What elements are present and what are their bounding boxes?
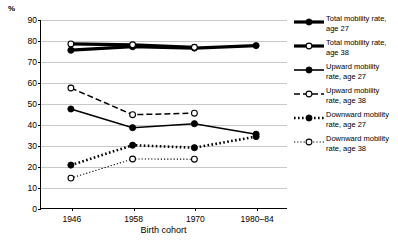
legend-item-upward-age-38[interactable]: Upward mobility rate, age 38 [292, 86, 398, 105]
legend-item-total-age-38[interactable]: Total mobility rate, age 38 [292, 38, 398, 57]
legend-marker-total-age-27 [292, 15, 326, 29]
x-tick-mark [134, 208, 135, 211]
plot-area: 01020304050607080901946195819701980–84 [40, 20, 287, 209]
y-tick-mark [38, 104, 41, 105]
y-tick-label: 60 [7, 78, 37, 88]
y-tick-label: 70 [7, 57, 37, 67]
y-tick-mark [38, 167, 41, 168]
gridline [41, 41, 287, 42]
x-tick-mark [72, 208, 73, 211]
y-tick-mark [38, 125, 41, 126]
y-tick-label: 50 [7, 99, 37, 109]
legend-item-total-age-27[interactable]: Total mobility rate, age 27 [292, 14, 398, 33]
y-tick-mark [38, 20, 41, 21]
gridline [41, 83, 287, 84]
y-tick-label: 90 [7, 15, 37, 25]
legend-item-downward-age-27[interactable]: Downward mobility rate, age 27 [292, 110, 398, 129]
x-tick-mark [195, 208, 196, 211]
y-tick-label: 10 [7, 183, 37, 193]
gridline [41, 146, 287, 147]
legend-marker-upward-age-27 [292, 63, 326, 77]
x-tick-label: 1980–84 [241, 214, 274, 224]
y-tick-mark [38, 188, 41, 189]
legend-marker-total-age-38 [292, 39, 326, 53]
x-tick-label: 1946 [62, 214, 81, 224]
gridline [41, 20, 287, 21]
legend-label-upward-age-38: Upward mobility rate, age 38 [326, 86, 379, 105]
legend-label-upward-age-27: Upward mobility rate, age 27 [326, 62, 379, 81]
gridline [41, 62, 287, 63]
gridline [41, 125, 287, 126]
legend-label-downward-age-27: Downward mobility rate, age 27 [326, 110, 389, 129]
legend-label-downward-age-38: Downward mobility rate, age 38 [326, 134, 389, 153]
y-tick-mark [38, 83, 41, 84]
gridline [41, 167, 287, 168]
y-tick-label: 80 [7, 36, 37, 46]
x-tick-label: 1958 [124, 214, 143, 224]
y-tick-mark [38, 62, 41, 63]
legend-item-downward-age-38[interactable]: Downward mobility rate, age 38 [292, 134, 398, 153]
chart-container: % 01020304050607080901946195819701980–84… [0, 0, 398, 243]
chart-legend: Total mobility rate, age 27 Total mobili… [292, 14, 398, 158]
y-tick-label: 0 [7, 204, 37, 214]
y-tick-mark [38, 146, 41, 147]
y-tick-mark [38, 209, 41, 210]
gridline [41, 104, 287, 105]
gridline [41, 188, 287, 189]
legend-item-upward-age-27[interactable]: Upward mobility rate, age 27 [292, 62, 398, 81]
legend-marker-downward-age-27 [292, 111, 326, 125]
y-tick-mark [38, 41, 41, 42]
y-tick-label: 20 [7, 162, 37, 172]
y-tick-label: 40 [7, 120, 37, 130]
y-axis-unit-label: % [8, 4, 15, 13]
y-tick-label: 30 [7, 141, 37, 151]
legend-label-total-age-27: Total mobility rate, age 27 [326, 14, 386, 33]
legend-label-total-age-38: Total mobility rate, age 38 [326, 38, 386, 57]
x-tick-label: 1970 [186, 214, 205, 224]
legend-marker-upward-age-38 [292, 87, 326, 101]
x-tick-mark [257, 208, 258, 211]
x-axis-title: Birth cohort [40, 225, 287, 235]
legend-marker-downward-age-38 [292, 135, 326, 149]
